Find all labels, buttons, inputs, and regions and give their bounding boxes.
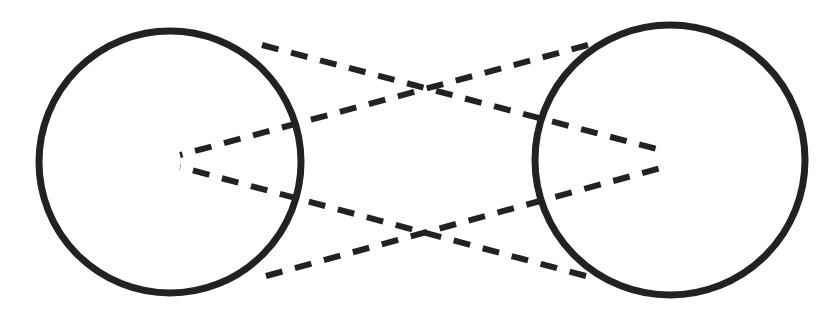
diagram-svg: [0, 0, 840, 322]
background-rect: [0, 0, 840, 322]
figure-canvas: Two circles joined by crossing dashed li…: [0, 0, 840, 322]
